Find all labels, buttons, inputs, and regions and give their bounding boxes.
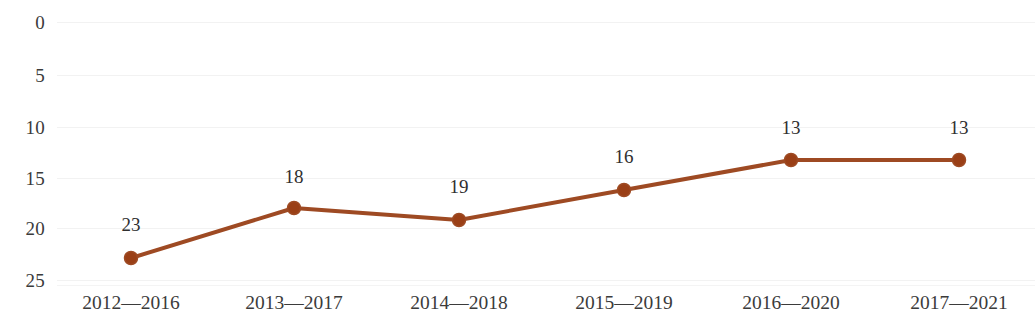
data-value-label: 19 xyxy=(450,177,469,196)
data-value-label: 16 xyxy=(615,147,634,166)
data-value-label: 13 xyxy=(782,118,801,137)
plot-area xyxy=(0,0,1036,290)
data-point-marker[interactable] xyxy=(125,252,138,265)
x-axis-category-label: 2015—2019 xyxy=(575,292,673,314)
data-point-marker[interactable] xyxy=(288,202,301,215)
data-value-label: 23 xyxy=(122,215,141,234)
series-markers xyxy=(125,154,966,265)
series-line xyxy=(131,160,959,258)
data-point-marker[interactable] xyxy=(618,184,631,197)
data-value-label: 13 xyxy=(950,118,969,137)
series-line-svg xyxy=(0,0,1036,290)
x-axis-category-label: 2014—2018 xyxy=(410,292,508,314)
data-point-marker[interactable] xyxy=(953,154,966,167)
x-axis-category-label: 2013—2017 xyxy=(245,292,343,314)
x-axis-category-label: 2016—2020 xyxy=(742,292,840,314)
data-point-marker[interactable] xyxy=(453,214,466,227)
line-chart: 0510152025 231819161313 2012—20162013—20… xyxy=(0,0,1036,325)
x-axis-category-label: 2012—2016 xyxy=(82,292,180,314)
x-axis-category-label: 2017—2021 xyxy=(910,292,1008,314)
data-point-marker[interactable] xyxy=(785,154,798,167)
data-value-label: 18 xyxy=(285,167,304,186)
